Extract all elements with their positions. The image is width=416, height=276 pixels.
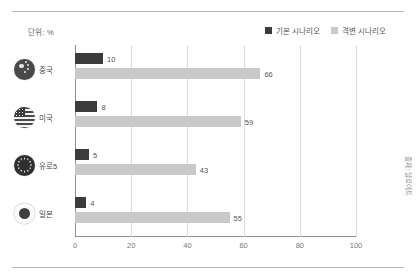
chart-legend: 기본 시나리오 격변 시나리오 (265, 25, 386, 36)
bar-value-label: 55 (234, 213, 242, 222)
bottom-divider (12, 267, 404, 268)
bar-group: 455 (75, 194, 356, 242)
category-name: 유로5 (39, 160, 57, 171)
x-tick-label: 60 (239, 241, 247, 250)
japan-flag-icon (14, 203, 35, 224)
x-tick-label: 100 (350, 241, 363, 250)
bar-group: 859 (75, 98, 356, 146)
bar[interactable] (75, 197, 86, 208)
legend-item-upheaval[interactable]: 격변 시나리오 (331, 25, 386, 36)
bar-value-label: 43 (200, 165, 208, 174)
x-tick-label: 80 (296, 241, 304, 250)
bar-value-label: 10 (107, 54, 115, 63)
plot-area: 1066859543455 (75, 45, 356, 237)
bar[interactable] (75, 68, 260, 79)
x-tick-label: 0 (73, 241, 77, 250)
usa-flag-icon (14, 107, 35, 128)
grid-line (356, 45, 357, 237)
bar[interactable] (75, 53, 103, 64)
legend-swatch-baseline (265, 27, 272, 34)
bar[interactable] (75, 101, 97, 112)
x-tick-label: 20 (127, 241, 135, 250)
bar-value-label: 4 (90, 198, 94, 207)
category-label-3: 유로5 (14, 141, 76, 189)
bar-value-label: 8 (101, 102, 105, 111)
top-divider (12, 11, 404, 12)
bar-group: 543 (75, 146, 356, 194)
category-label-1: 중국 (14, 45, 76, 93)
unit-label: 단위: % (28, 26, 54, 37)
category-label-4: 일본 (14, 189, 76, 237)
legend-swatch-upheaval (331, 27, 338, 34)
legend-label-baseline: 기본 시나리오 (276, 25, 320, 36)
chart-canvas: 단위: % 기본 시나리오 격변 시나리오 1066859543455 출처: … (0, 0, 416, 276)
category-name: 중국 (39, 64, 53, 75)
category-label-2: 미국 (14, 93, 76, 141)
bar[interactable] (75, 149, 89, 160)
source-note: 출처: 딜로이트 (404, 156, 414, 196)
legend-label-upheaval: 격변 시나리오 (342, 25, 386, 36)
bar[interactable] (75, 212, 230, 223)
china-flag-icon (14, 59, 35, 80)
bar-value-label: 5 (93, 150, 97, 159)
legend-item-baseline[interactable]: 기본 시나리오 (265, 25, 320, 36)
bar[interactable] (75, 116, 241, 127)
category-name: 일본 (39, 208, 53, 219)
eu-flag-icon (14, 155, 35, 176)
bar[interactable] (75, 164, 196, 175)
category-name: 미국 (39, 112, 53, 123)
bar-group: 1066 (75, 50, 356, 98)
bar-value-label: 59 (245, 117, 253, 126)
x-tick-label: 40 (183, 241, 191, 250)
bar-value-label: 66 (264, 69, 272, 78)
